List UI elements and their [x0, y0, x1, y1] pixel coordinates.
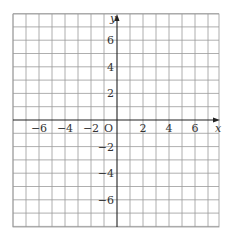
y-tick-label: 6 — [107, 34, 114, 47]
x-axis-label: x — [215, 122, 222, 135]
x-tick-label: 2 — [140, 122, 147, 135]
y-tick-label: 4 — [107, 61, 114, 74]
x-tick-label: −4 — [57, 122, 73, 135]
y-axis-label: y — [109, 12, 117, 25]
y-tick-label: −2 — [98, 141, 114, 154]
y-tick-label: 2 — [107, 87, 114, 100]
axes — [13, 14, 220, 227]
x-tick-label: −6 — [31, 122, 47, 135]
origin-label: O — [104, 122, 113, 135]
x-tick-label: 6 — [192, 122, 199, 135]
x-tick-label: −2 — [83, 122, 99, 135]
tick-labels: −6−4−2246642−2−4−6Oxy — [31, 12, 222, 207]
y-tick-label: −6 — [98, 194, 114, 207]
y-tick-label: −4 — [98, 167, 114, 180]
coordinate-plane: −6−4−2246642−2−4−6Oxy — [0, 0, 233, 237]
x-tick-label: 4 — [166, 122, 173, 135]
